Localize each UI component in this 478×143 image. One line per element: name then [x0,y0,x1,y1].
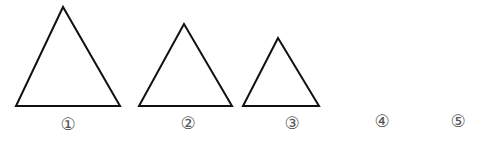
label-3: ③ [284,115,299,132]
label-5: ⑤ [450,113,465,130]
label-4: ④ [374,113,389,130]
triangle-1 [16,7,120,106]
triangle-2 [139,24,232,106]
label-1: ① [60,116,75,133]
label-2: ② [180,115,195,132]
triangle-3 [243,38,319,106]
